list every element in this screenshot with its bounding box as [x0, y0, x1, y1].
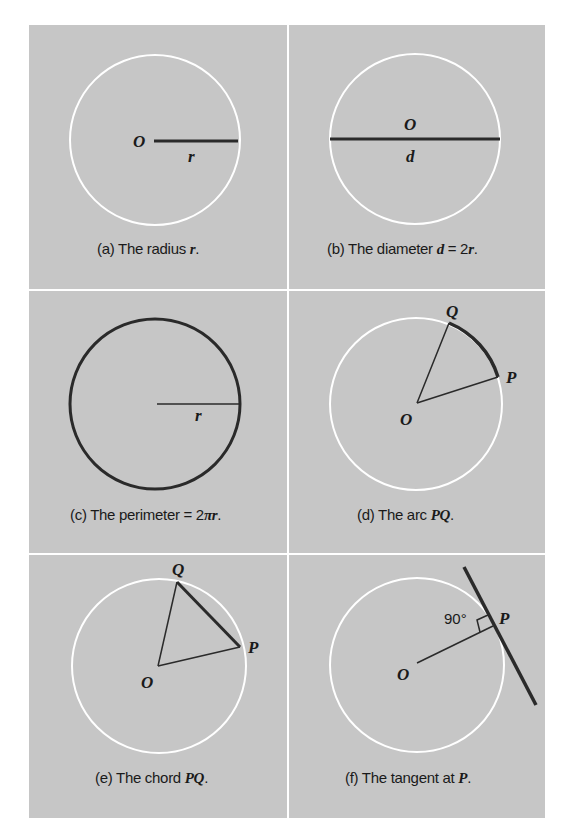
caption-c: (c) The perimeter = 2πr.	[70, 506, 221, 523]
point-label-p: P	[505, 368, 517, 387]
circle-definitions-figure: O r (a) The radius r. O d (b) The diamet…	[0, 0, 565, 839]
caption-e: (e) The chord PQ.	[95, 769, 208, 786]
center-label-o: O	[404, 115, 416, 134]
point-label-q: Q	[172, 560, 184, 579]
caption-d: (d) The arc PQ.	[357, 506, 454, 523]
point-label-p: P	[247, 638, 259, 657]
caption-a: (a) The radius r.	[97, 240, 199, 257]
center-label-o: O	[141, 673, 153, 692]
caption-b: (b) The diameter d = 2r.	[327, 240, 478, 257]
caption-f: (f) The tangent at P.	[345, 769, 471, 786]
point-label-q: Q	[446, 302, 458, 321]
angle-label-90: 90°	[444, 610, 467, 627]
diameter-label-d: d	[406, 147, 415, 166]
radius-label-r: r	[195, 406, 202, 425]
radius-label-r: r	[188, 147, 195, 166]
point-label-p: P	[498, 609, 510, 628]
center-label-o: O	[400, 410, 412, 429]
center-label-o: O	[397, 665, 409, 684]
center-label-o: O	[133, 132, 145, 151]
